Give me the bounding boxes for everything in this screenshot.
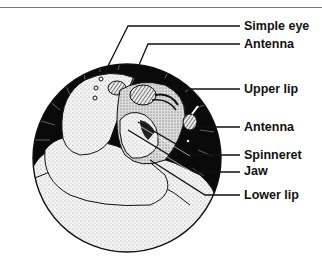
label-antenna-top: Antenna xyxy=(244,37,294,51)
label-antenna-right: Antenna xyxy=(244,120,294,134)
antenna-right-shape xyxy=(183,114,197,130)
label-simple-eye: Simple eye xyxy=(244,19,309,33)
label-jaw: Jaw xyxy=(244,164,268,178)
label-spinneret: Spinneret xyxy=(244,148,302,162)
label-lower-lip: Lower lip xyxy=(244,188,299,202)
label-upper-lip: Upper lip xyxy=(244,82,298,96)
upper-lip-shape xyxy=(130,85,156,105)
